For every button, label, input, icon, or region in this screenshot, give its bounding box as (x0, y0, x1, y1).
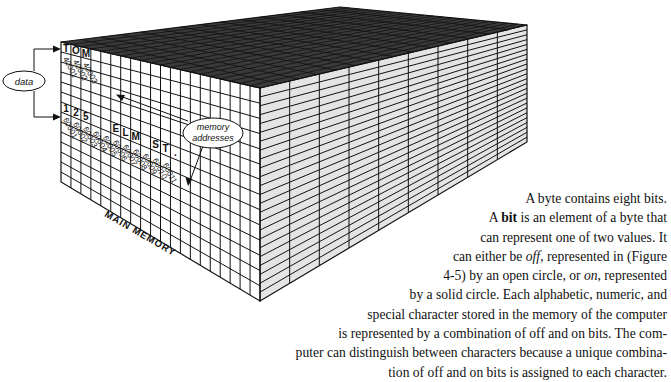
data-label: data (15, 76, 34, 87)
data-char: O (72, 45, 80, 56)
data-char: M (131, 131, 139, 142)
data-char: L (123, 127, 129, 138)
data-char: E (112, 123, 119, 134)
arrowhead-icon (53, 46, 61, 53)
data-char: 2 (73, 107, 79, 118)
caption-line: by a solid circle. Each alphabetic, nume… (227, 285, 667, 304)
memory-addresses-label-line2: addresses (192, 133, 234, 143)
caption-line: can represent one of two values. It (227, 228, 667, 247)
data-char: 5 (83, 111, 89, 122)
caption-line: special character stored in the memory o… (227, 305, 667, 324)
caption-line: puter can distinguish between characters… (227, 343, 667, 362)
data-char: 1 (63, 103, 69, 114)
data-arrow-top (34, 49, 55, 71)
data-char: T (162, 143, 168, 154)
term-on: on (584, 268, 598, 283)
data-char: S (152, 139, 159, 150)
caption-line: A bit is an element of a byte that (227, 208, 667, 227)
caption-line: can either be off, represented in (Figur… (227, 247, 667, 266)
term-bit: bit (501, 210, 517, 225)
caption-line: tion of off and on bits is assigned to e… (227, 363, 667, 382)
data-char: . (174, 147, 177, 158)
caption-line: A byte contains eight bits. (227, 189, 667, 208)
data-char: T (63, 43, 69, 54)
data-callout: data (3, 46, 61, 121)
term-off: off (526, 249, 540, 264)
caption-text: A byte contains eight bits. A bit is an … (227, 189, 667, 382)
memory-addresses-label-line1: memory (197, 122, 230, 132)
caption-line: is represented by a combination of off a… (227, 324, 667, 343)
data-arrow-bottom (34, 91, 55, 117)
caption-line: 4-5) by an open circle, or on, represent… (227, 266, 667, 285)
arrowhead-icon (53, 114, 61, 121)
data-char: M (82, 48, 90, 59)
